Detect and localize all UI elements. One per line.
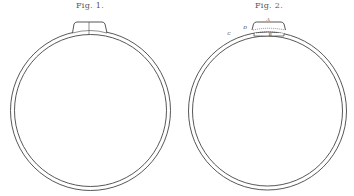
fig2-label-a: A — [266, 17, 269, 22]
figure-plate: Fig. 1. Fig. 2. A B C D — [0, 0, 354, 196]
fig1-title: Fig. 1. — [76, 1, 104, 10]
fig2-label-d: D — [243, 25, 247, 30]
fig1-ring — [11, 31, 171, 191]
fig2-label-c: C — [227, 31, 230, 36]
fig2-title: Fig. 2. — [255, 1, 283, 10]
fig1-clasp — [73, 22, 108, 35]
rings-drawing — [0, 0, 354, 196]
fig2-ring — [189, 32, 347, 190]
fig2-label-b: B — [268, 32, 271, 37]
